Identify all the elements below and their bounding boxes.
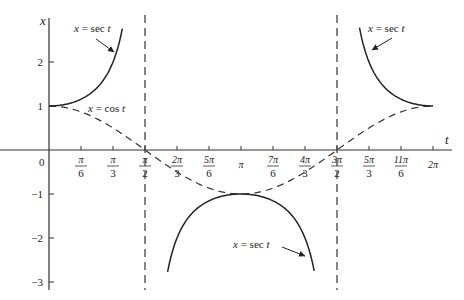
label-cos: x = cos t: [87, 102, 126, 114]
t-tick-label: π: [78, 154, 84, 165]
t-tick-label: 5π: [364, 154, 375, 165]
t-axis-label: t: [445, 132, 449, 147]
x-tick-label: −1: [31, 188, 43, 200]
t-tick-label-den: 3: [366, 167, 372, 179]
x-tick-label: −3: [31, 276, 43, 288]
t-tick-label: 11π: [394, 154, 409, 165]
label-sec-mid: x = sec t: [232, 238, 270, 250]
t-tick-label-den: 6: [78, 167, 84, 179]
sec-curve-left: [49, 29, 122, 106]
t-tick-label: 5π: [204, 154, 215, 165]
t-tick-label: 2π: [172, 154, 183, 165]
x-tick-label: −2: [31, 232, 43, 244]
origin-label: 0: [39, 156, 45, 168]
t-tick-label-den: 6: [270, 167, 276, 179]
arrow-sec-right: [372, 38, 392, 50]
t-tick-label-den: 3: [110, 167, 116, 179]
t-tick-label-den: 6: [206, 167, 212, 179]
t-tick-label: π: [238, 159, 244, 170]
t-tick-label: 4π: [300, 154, 311, 165]
x-tick-label: 1: [38, 100, 44, 112]
sec-curve-middle: [168, 194, 315, 272]
label-sec-left: x = sec t: [73, 22, 111, 34]
t-tick-label-den: 6: [398, 167, 404, 179]
arrow-sec-mid: [282, 247, 305, 256]
trig-graph: π6π3π22π35π6π7π64π33π25π311π62π 21−1−2−3…: [0, 0, 464, 300]
t-tick-label: 2π: [428, 159, 439, 170]
sec-curve-right: [360, 28, 434, 106]
t-axis-ticks: π6π3π22π35π6π7π64π33π25π311π62π: [75, 146, 439, 179]
x-axis-ticks: 21−1−2−3: [31, 56, 54, 288]
t-tick-label: 7π: [268, 154, 279, 165]
x-tick-label: 2: [38, 56, 44, 68]
x-axis-label: x: [39, 13, 46, 28]
t-tick-label: π: [110, 154, 116, 165]
label-sec-right: x = sec t: [367, 22, 405, 34]
arrow-sec-left: [96, 39, 114, 52]
